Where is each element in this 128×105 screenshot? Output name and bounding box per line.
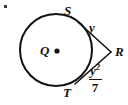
fraction-numerator: y2	[84, 64, 106, 78]
label-tangent-point-lower: T	[63, 86, 71, 99]
label-tangent-length-upper: y	[89, 21, 95, 34]
label-tangent-length-lower: y2 7	[84, 64, 106, 94]
label-external-point: R	[115, 45, 124, 58]
fraction-numerator-exponent: 2	[96, 63, 100, 72]
label-circle-center: Q	[40, 44, 49, 57]
center-point-dot	[54, 48, 59, 53]
geometry-figure: S T R Q y y2 7	[0, 0, 128, 105]
fraction-denominator: 7	[84, 81, 106, 95]
label-tangent-point-upper: S	[64, 4, 71, 17]
stray-mark	[4, 5, 7, 8]
